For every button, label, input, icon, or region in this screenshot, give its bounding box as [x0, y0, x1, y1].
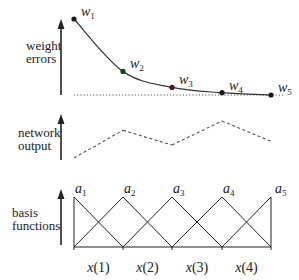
weight-error-point — [71, 16, 76, 21]
weight-error-point — [219, 90, 224, 95]
x-interval-label: x(1) — [86, 260, 110, 276]
network-output-panel: network output — [18, 114, 271, 160]
basis-function-label: a1 — [75, 181, 87, 198]
x-interval-label: x(3) — [185, 260, 209, 276]
network-output-segment — [123, 130, 172, 145]
basis-functions-label-line2: functions — [12, 218, 60, 233]
weight-error-point-label: w1 — [81, 4, 95, 21]
weight-error-point-label: w4 — [229, 78, 243, 95]
network-output-segment — [74, 130, 123, 158]
x-interval-label: x(2) — [135, 260, 159, 276]
weight-error-point — [268, 92, 273, 97]
network-output-segment — [172, 121, 222, 145]
basis-function-label: a3 — [173, 181, 185, 198]
weight-errors-panel: weight errors w1w2w3w4w5 — [26, 4, 292, 98]
weight-errors-axis-arrow — [58, 19, 65, 95]
basis-function-label: a4 — [223, 181, 235, 198]
diagram-canvas: weight errors w1w2w3w4w5 network output … — [0, 0, 299, 280]
basis-functions-axis-arrow — [58, 189, 65, 245]
basis-function-label: a5 — [275, 181, 287, 198]
weight-error-point-label: w5 — [278, 80, 292, 97]
weight-error-point-label: w3 — [179, 72, 193, 89]
weight-errors-label-line2: errors — [26, 51, 56, 66]
network-output-segment — [222, 121, 271, 141]
weight-error-point — [120, 69, 125, 74]
basis-functions-panel: basis functions a1a2a3a4a5 x(1)x(2)x(3)x… — [12, 181, 287, 276]
weight-errors-curve — [74, 19, 271, 95]
basis-function-label: a2 — [124, 181, 136, 198]
weight-error-point-label: w2 — [130, 56, 144, 73]
network-output-label-line2: output — [18, 138, 52, 153]
x-interval-label: x(4) — [234, 260, 258, 276]
weight-error-point — [169, 85, 174, 90]
